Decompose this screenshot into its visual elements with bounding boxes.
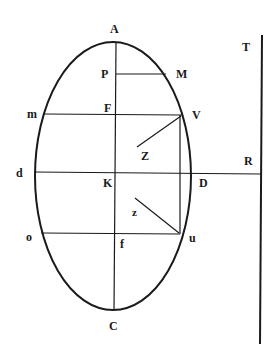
label-K: K — [103, 176, 113, 190]
directrix-TR — [260, 35, 262, 344]
line-zu — [135, 198, 179, 233]
ellipse-geometry-diagram: A P M T m F V Z R d K D z o f u C — [0, 0, 273, 358]
label-C: C — [109, 319, 118, 333]
label-d: d — [16, 166, 23, 180]
ellipse-curve — [35, 42, 191, 310]
label-V: V — [192, 108, 201, 122]
label-m: m — [27, 107, 37, 121]
label-Z: Z — [141, 149, 149, 163]
chord-mV — [44, 114, 182, 115]
label-P: P — [101, 67, 108, 81]
label-A: A — [110, 22, 119, 36]
label-M: M — [176, 67, 187, 81]
label-T: T — [242, 40, 250, 54]
label-f: f — [120, 237, 125, 251]
diameter-dR — [34, 172, 261, 174]
axis-AC — [114, 43, 116, 310]
chord-ou — [41, 233, 180, 234]
label-z: z — [132, 206, 137, 218]
line-VZ — [137, 116, 181, 147]
label-R: R — [244, 154, 253, 168]
label-o: o — [26, 230, 32, 244]
label-u: u — [189, 231, 196, 245]
label-F: F — [104, 101, 111, 115]
label-D: D — [199, 176, 208, 190]
